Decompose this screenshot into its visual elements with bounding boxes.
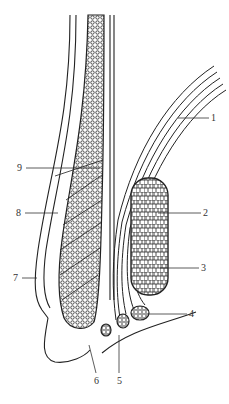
leader-lines bbox=[22, 118, 209, 373]
label-4: 4 bbox=[189, 309, 194, 319]
label-1: 1 bbox=[211, 113, 216, 123]
hair-shaft bbox=[55, 15, 104, 328]
sebaceous-gland bbox=[131, 178, 168, 295]
label-6: 6 bbox=[94, 376, 99, 386]
anatomy-diagram bbox=[0, 0, 229, 404]
label-7: 7 bbox=[13, 273, 18, 283]
label-8: 8 bbox=[16, 208, 21, 218]
label-3: 3 bbox=[201, 263, 206, 273]
arrector-muscle bbox=[113, 66, 226, 320]
label-5: 5 bbox=[117, 376, 122, 386]
label-2: 2 bbox=[203, 208, 208, 218]
label-9: 9 bbox=[17, 163, 22, 173]
